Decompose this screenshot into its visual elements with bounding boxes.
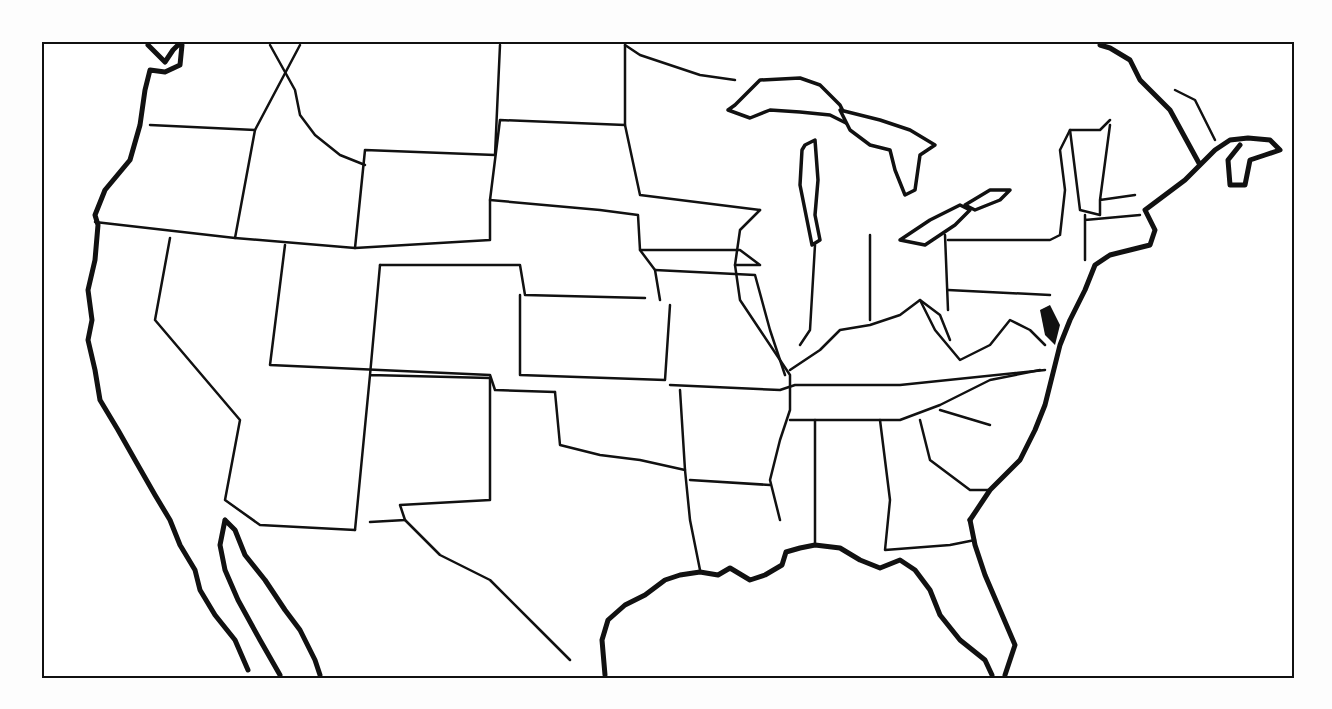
us-outline-map xyxy=(0,0,1332,709)
